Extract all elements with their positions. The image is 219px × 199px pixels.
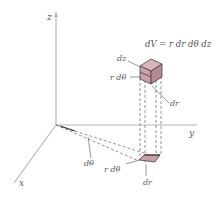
y-axis-label: y xyxy=(188,128,195,138)
volume-formula: dV = r dr dθ dz xyxy=(145,39,212,49)
pointer-dz xyxy=(128,61,140,67)
base-element-shape xyxy=(139,155,160,162)
cylindrical-volume-diagram: z y x dV = r dr dθ dz dz r dθ dr dθ r dθ… xyxy=(0,0,219,199)
pointer-r-dtheta-base xyxy=(126,160,139,164)
x-axis-label: x xyxy=(19,178,24,188)
base-element xyxy=(139,155,160,162)
z-axis-label: z xyxy=(46,12,52,22)
label-dr-base: dr xyxy=(143,178,153,187)
z-axis-arrow-icon xyxy=(54,11,58,17)
label-r-dtheta-top: r dθ xyxy=(110,73,126,82)
label-r-dtheta-base: r dθ xyxy=(104,165,120,174)
label-dr-top: dr xyxy=(170,99,180,108)
radial-line-inner xyxy=(56,125,139,161)
volume-element xyxy=(140,59,162,84)
label-dtheta: dθ xyxy=(84,159,94,168)
pointer-dr-top xyxy=(152,86,169,103)
label-dz: dz xyxy=(117,54,127,63)
x-axis xyxy=(14,125,56,183)
